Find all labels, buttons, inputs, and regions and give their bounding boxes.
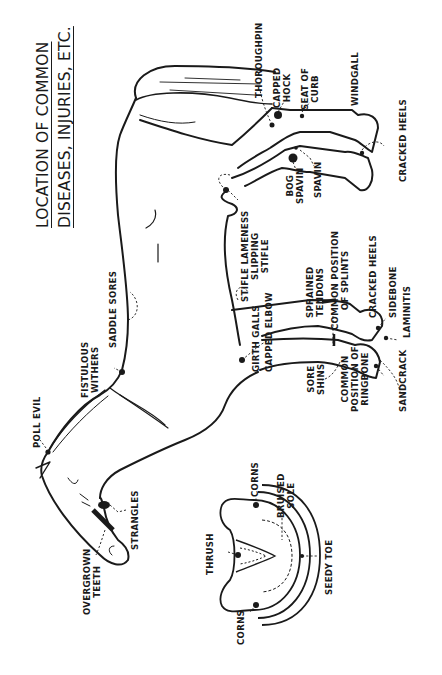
label-bruised-sole: BRUISED SOLE <box>276 473 296 518</box>
label-seat-of-curb: SEAT OF CURB <box>300 68 320 110</box>
label-thrush: THRUSH <box>205 533 215 575</box>
label-cracked-heels-hind: CRACKED HEELS <box>398 99 408 182</box>
label-stifle-lameness: STIFLE LAMENESS SLIPPING STIFLE <box>240 210 270 302</box>
label-poll-evil: POLL EVIL <box>32 397 42 448</box>
label-sore-shins: SORE SHINS <box>306 364 326 395</box>
capped-hock-dot <box>274 111 282 119</box>
label-seedy-toe: SEEDY TOE <box>324 540 334 595</box>
label-windgall: WINDGALL <box>350 52 360 106</box>
spavin-dot <box>294 146 298 150</box>
poll-evil-dot <box>45 449 50 454</box>
label-common-position-of-ringbone: COMMON POSITION OF RINGBONE <box>340 346 370 412</box>
label-sprained-tendons: SPRAINED TENDONS <box>305 266 325 318</box>
label-capped-hock: CAPPED HOCK <box>272 68 292 108</box>
label-cracked-heels-fore: CRACKED HEELS <box>368 235 378 318</box>
horse-diagram: LOCATION OF COMMON DISEASES, INJURIES, E… <box>0 0 442 675</box>
title-line-1: LOCATION OF COMMON <box>32 26 54 228</box>
label-sandcrack: SANDCRACK <box>398 350 408 412</box>
seat-of-curb-dot <box>300 114 304 118</box>
label-sidebone: SIDEBONE <box>388 266 398 318</box>
overgrown-teeth-marker <box>93 510 113 530</box>
title-line-2: DISEASES, INJURIES, ETC. <box>54 26 76 228</box>
label-thoroughpin: THOROUGHPIN <box>254 23 264 99</box>
diagram-title: LOCATION OF COMMON DISEASES, INJURIES, E… <box>32 26 76 228</box>
label-laminitis: LAMINITIS <box>402 286 412 338</box>
label-overgrown-teeth: OVERGROWN TEETH <box>82 548 102 615</box>
label-bog-spavin: BOG SPAVIN <box>285 167 305 204</box>
label-spavin: SPAVIN <box>313 161 323 198</box>
strangles-marker <box>98 501 110 509</box>
label-corns-bottom: CORNS <box>236 610 246 645</box>
label-strangles: STRANGLES <box>130 490 140 550</box>
label-capped-elbow: CAPPED ELBOW <box>264 292 274 372</box>
label-fistulous-withers: FISTULOUS WITHERS <box>80 342 100 398</box>
horse-belly <box>222 190 240 345</box>
horse-mane <box>50 390 105 448</box>
cracked-heels-hind-dot <box>360 151 364 155</box>
label-saddle-sores: SADDLE SORES <box>108 271 118 348</box>
label-corns-top: CORNS <box>250 462 260 497</box>
bog-spavin-dot <box>289 154 298 163</box>
label-girth-galls: GIRTH GALLS <box>251 305 261 372</box>
label-common-position-of-splints: COMMON POSITION OF SPLINTS <box>330 231 350 330</box>
